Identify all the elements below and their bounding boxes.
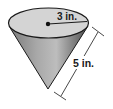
radius-label: 3 in.: [57, 11, 77, 22]
slant-dimension-tick-top: [92, 27, 104, 36]
slant-dimension-tick-bottom: [54, 92, 66, 100]
slant-height-label: 5 in.: [73, 57, 94, 69]
cone-diagram: 3 in. 5 in.: [0, 0, 113, 109]
